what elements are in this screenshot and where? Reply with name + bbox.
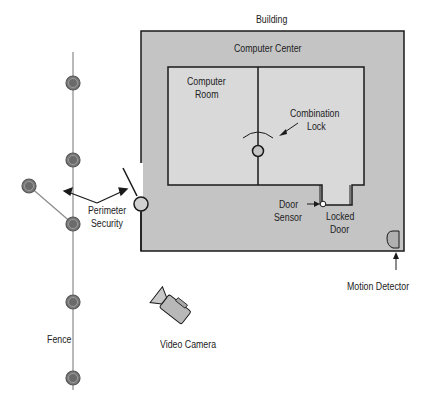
label-computer-center: Computer Center: [234, 43, 301, 55]
video-camera-icon: [150, 286, 193, 326]
label-door-sensor-1: Door: [279, 199, 298, 211]
door-sensor-icon: [320, 201, 326, 207]
perimeter-gate-sensor: [134, 197, 148, 211]
motion-detector-icon: [387, 231, 399, 248]
label-computer-room-1: Computer: [187, 76, 226, 88]
label-perimeter-security-1: Perimeter: [88, 205, 126, 217]
label-locked-door-2: Door: [330, 224, 349, 236]
label-building: Building: [256, 14, 287, 26]
label-door-sensor-2: Sensor: [274, 212, 302, 224]
label-perimeter-security-2: Security: [91, 218, 123, 230]
label-locked-door-1: Locked: [326, 211, 354, 223]
label-combination-lock-1: Combination: [290, 108, 339, 120]
label-motion-detector: Motion Detector: [347, 281, 409, 293]
label-fence: Fence: [47, 334, 71, 346]
label-combination-lock-2: Lock: [307, 121, 326, 133]
combination-lock-icon: [253, 146, 264, 157]
label-video-camera: Video Camera: [160, 339, 216, 351]
label-computer-room-2: Room: [195, 89, 218, 101]
